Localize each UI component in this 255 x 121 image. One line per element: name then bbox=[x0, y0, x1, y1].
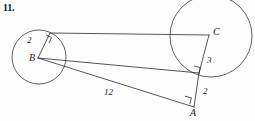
segment-label-a: 2 bbox=[203, 87, 208, 96]
circle-b bbox=[12, 30, 66, 84]
segment-tangent-c-to-a bbox=[194, 73, 199, 107]
right-angle-mark-a bbox=[185, 96, 191, 104]
segment-label-ba: 12 bbox=[104, 88, 113, 97]
circle-c bbox=[170, 0, 252, 77]
radius-label-b: 2 bbox=[27, 36, 32, 45]
radius-segment-b bbox=[38, 33, 50, 58]
geometry-figure: 11. B C A 2 3 2 12 bbox=[0, 0, 255, 121]
point-label-a: A bbox=[190, 108, 196, 118]
figure-canvas bbox=[0, 0, 255, 121]
point-label-b: B bbox=[29, 53, 35, 63]
tangent-line-b-to-c bbox=[50, 33, 209, 35]
point-label-c: C bbox=[213, 27, 220, 37]
radius-label-c: 3 bbox=[207, 56, 212, 65]
